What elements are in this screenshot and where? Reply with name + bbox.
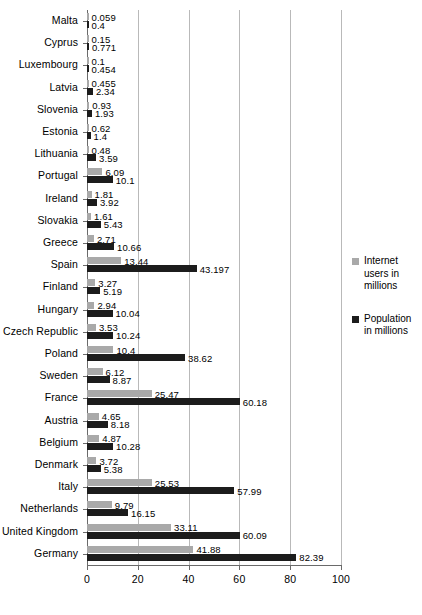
chart-row: Latvia0.4552.34 <box>0 77 422 99</box>
bar-population <box>87 532 240 539</box>
x-tick-mark <box>189 565 190 570</box>
x-tick-mark <box>87 565 88 570</box>
bar-population <box>87 443 113 450</box>
legend-label: Population in millions <box>364 313 420 338</box>
value-label-population: 60.09 <box>243 530 267 541</box>
value-label-population: 8.87 <box>113 375 132 386</box>
bar-internet-users <box>87 35 89 42</box>
category-label: Lithuania <box>0 147 78 159</box>
category-label: Sweden <box>0 369 78 381</box>
chart-row: Portugal6.0910.1 <box>0 165 422 187</box>
chart-row: Belgium4.8710.28 <box>0 432 422 454</box>
bar-population <box>87 21 89 28</box>
horizontal-bar-chart: 020406080100 Malta0.0590.4Cyprus0.150.77… <box>0 0 422 615</box>
value-label-population: 1.93 <box>95 108 114 119</box>
chart-row: Lithuania0.483.59 <box>0 143 422 165</box>
bar-internet-users <box>87 102 89 109</box>
x-tick-label: 80 <box>270 573 310 585</box>
category-label: Greece <box>0 236 78 248</box>
bar-internet-users <box>87 501 112 508</box>
value-label-population: 10.1 <box>116 175 135 186</box>
bar-population <box>87 354 185 361</box>
chart-row: Italy25.5357.99 <box>0 476 422 498</box>
bar-internet-users <box>87 80 89 87</box>
chart-row: Slovakia1.615.43 <box>0 210 422 232</box>
value-label-population: 16.15 <box>131 508 155 519</box>
bar-internet-users <box>87 524 171 531</box>
category-label: Austria <box>0 414 78 426</box>
bar-internet-users <box>87 346 113 353</box>
bar-population <box>87 110 92 117</box>
bar-population <box>87 265 197 272</box>
bar-internet-users <box>87 57 89 64</box>
bar-population <box>87 509 128 516</box>
bar-population <box>87 154 96 161</box>
chart-row: Sweden6.128.87 <box>0 365 422 387</box>
bar-internet-users <box>87 479 152 486</box>
chart-row: Estonia0.621.4 <box>0 121 422 143</box>
bar-internet-users <box>87 368 103 375</box>
x-tick-mark <box>138 565 139 570</box>
chart-row: Greece2.7110.66 <box>0 232 422 254</box>
category-label: Slovakia <box>0 214 78 226</box>
category-label: Italy <box>0 480 78 492</box>
bar-population <box>87 465 101 472</box>
value-label-population: 82.39 <box>299 552 323 563</box>
x-tick-label: 40 <box>169 573 209 585</box>
x-axis-line <box>87 565 342 566</box>
chart-row: Denmark3.725.38 <box>0 454 422 476</box>
bar-internet-users <box>87 213 91 220</box>
x-tick-label: 60 <box>219 573 259 585</box>
x-tick-mark <box>341 565 342 570</box>
chart-row: Netherlands9.7916.15 <box>0 498 422 520</box>
x-tick-mark <box>290 565 291 570</box>
bar-population <box>87 221 101 228</box>
value-label-population: 3.92 <box>100 197 119 208</box>
value-label-population: 2.34 <box>96 86 115 97</box>
category-label: Luxembourg <box>0 58 78 70</box>
chart-legend: Internet users in millionsPopulation in … <box>352 255 420 358</box>
chart-row: Cyprus0.150.771 <box>0 32 422 54</box>
value-label-population: 10.24 <box>116 330 140 341</box>
chart-row: United Kingdom33.1160.09 <box>0 521 422 543</box>
bar-internet-users <box>87 324 96 331</box>
chart-row: Slovenia0.931.93 <box>0 99 422 121</box>
bar-population <box>87 287 100 294</box>
bar-internet-users <box>87 390 152 397</box>
category-label: Finland <box>0 280 78 292</box>
category-label: Belgium <box>0 436 78 448</box>
bar-population <box>87 310 113 317</box>
category-label: Poland <box>0 347 78 359</box>
bar-population <box>87 554 296 561</box>
legend-entry: Internet users in millions <box>352 255 420 293</box>
category-label: France <box>0 391 78 403</box>
bar-internet-users <box>87 191 92 198</box>
legend-label: Internet users in millions <box>364 255 420 293</box>
bar-population <box>87 43 89 50</box>
category-label: Czech Republic <box>0 325 78 337</box>
value-label-population: 5.38 <box>104 464 123 475</box>
bar-internet-users <box>87 13 89 20</box>
category-label: Denmark <box>0 458 78 470</box>
bar-internet-users <box>87 302 94 309</box>
category-label: Portugal <box>0 169 78 181</box>
value-label-population: 43.197 <box>200 264 230 275</box>
bar-population <box>87 65 89 72</box>
category-label: Germany <box>0 547 78 559</box>
value-label-population: 0.771 <box>92 42 116 53</box>
category-label: Spain <box>0 258 78 270</box>
category-label: Netherlands <box>0 502 78 514</box>
category-label: United Kingdom <box>0 525 78 537</box>
category-label: Malta <box>0 14 78 26</box>
bar-internet-users <box>87 168 102 175</box>
x-tick-mark <box>239 565 240 570</box>
bar-population <box>87 332 113 339</box>
category-label: Estonia <box>0 125 78 137</box>
value-label-population: 60.18 <box>243 397 267 408</box>
bar-internet-users <box>87 435 99 442</box>
category-label: Cyprus <box>0 36 78 48</box>
value-label-population: 8.18 <box>111 419 130 430</box>
category-label: Latvia <box>0 81 78 93</box>
chart-row: Austria4.658.18 <box>0 410 422 432</box>
chart-row: Luxembourg0.10.454 <box>0 54 422 76</box>
